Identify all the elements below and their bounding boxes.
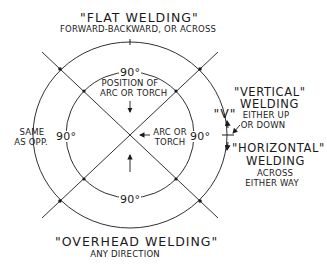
arc-note-line1: ARC OR	[152, 128, 188, 137]
position-note-line2: ARC OR TORCH	[100, 89, 160, 98]
welding-positions-diagram: "FLAT WELDING" FORWARD-BACKWARD, OR ACRO…	[0, 0, 327, 265]
vertical-up-arrow	[227, 121, 228, 128]
horizontal-title-line1: "HORIZONTAL"	[232, 143, 318, 155]
vertical-sub-line1: EITHER UP	[240, 111, 292, 120]
flat-welding-title: "FLAT WELDING"	[80, 12, 180, 25]
left-note-line2: AS OPP.	[12, 138, 50, 147]
angle-bottom: 90°	[119, 194, 141, 205]
angle-left: 90°	[55, 131, 77, 142]
horizontal-down-arrow	[227, 142, 228, 150]
arc-note-line2: TORCH	[152, 138, 188, 147]
vertical-marker: "V"	[213, 108, 237, 121]
horizontal-sub-line1: ACROSS	[250, 169, 300, 178]
left-note-line1: SAME	[14, 128, 50, 137]
overhead-welding-subtitle: ANY DIRECTION	[80, 250, 170, 259]
position-note-line1: POSITION OF	[100, 79, 160, 88]
vertical-sub-line2: OR DOWN	[238, 121, 288, 130]
angle-top: 90°	[119, 67, 141, 78]
horizontal-sub-line2: EITHER WAY	[240, 179, 304, 188]
overhead-welding-title: "OVERHEAD WELDING"	[55, 236, 195, 249]
angle-right: 90°	[189, 131, 211, 142]
vertical-title-line2: WELDING	[240, 99, 298, 111]
flat-welding-subtitle: FORWARD-BACKWARD, OR ACROSS	[60, 25, 200, 34]
horizontal-title-line2: WELDING	[246, 156, 304, 168]
